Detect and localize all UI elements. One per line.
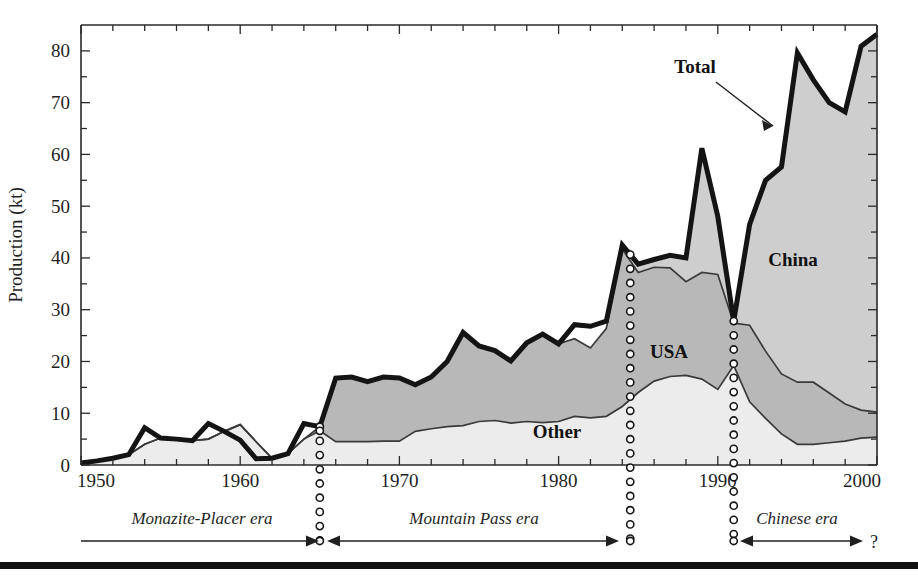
x-tick-label-2000: 2000: [843, 470, 881, 491]
era-divider-dot-2: [730, 374, 737, 381]
era-divider-dot-2: [730, 417, 737, 424]
y-tick-label-20: 20: [51, 351, 70, 372]
footer-rule: [0, 562, 918, 569]
era-divider-dot-2: [730, 388, 737, 395]
era-divider-dot-0: [316, 480, 323, 487]
era-divider-dot-1: [627, 407, 634, 414]
boundary-marker-1: [316, 427, 323, 434]
era-divider-dot-2: [730, 346, 737, 353]
y-tick-label-70: 70: [51, 92, 70, 113]
era-divider-dot-2: [730, 403, 737, 410]
era-divider-dot-2: [730, 516, 737, 523]
usa-annotation-label: USA: [650, 341, 688, 362]
era-divider-dot-1: [627, 279, 634, 286]
era-divider-dot-1: [627, 308, 634, 315]
x-tick-label-1950: 1950: [77, 470, 115, 491]
other-annotation-label: Other: [533, 421, 582, 442]
era-timeline-group: Monazite-Placer era Mountain Pass era Ch…: [81, 509, 878, 552]
era-divider-dot-1: [627, 336, 634, 343]
era3-arrowhead-right: [850, 536, 863, 547]
era-divider-dot-0: [316, 451, 323, 458]
era-divider-dot-1: [627, 379, 634, 386]
era-divider-dot-2: [730, 332, 737, 339]
era-divider-dot-0: [316, 437, 323, 444]
y-tick-label-30: 30: [51, 299, 70, 320]
era-divider-dot-2: [730, 317, 737, 324]
era-divider-dot-2: [730, 431, 737, 438]
era-divider-dot-1: [627, 322, 634, 329]
era-divider-dot-2: [730, 474, 737, 481]
era2-arrowhead-right: [606, 536, 619, 547]
era-divider-dot-2: [730, 360, 737, 367]
era-divider-dot-0: [316, 522, 323, 529]
era-divider-dot-1: [627, 251, 634, 258]
era-divider-dot-1: [627, 436, 634, 443]
era-divider-dot-2: [730, 445, 737, 452]
era-divider-dot-1: [627, 350, 634, 357]
y-tick-label-80: 80: [51, 40, 70, 61]
production-area-chart: 01020304050607080 1950196019701980199020…: [0, 0, 918, 578]
era-divider-dot-1: [627, 265, 634, 272]
era-divider-dot-1: [627, 450, 634, 457]
y-tick-label-10: 10: [51, 403, 70, 424]
era-label-monazite-placer: Monazite-Placer era: [130, 509, 272, 528]
era-divider-endpoint-1: [627, 537, 634, 544]
era-label-mountain-pass: Mountain Pass era: [408, 509, 538, 528]
y-tick-label-40: 40: [51, 247, 70, 268]
era-divider-dot-2: [730, 459, 737, 466]
x-tick-label-1970: 1970: [380, 470, 418, 491]
figure-container: 01020304050607080 1950196019701980199020…: [0, 0, 918, 578]
era-divider-dot-2: [730, 488, 737, 495]
era-divider-dot-1: [627, 294, 634, 301]
era-divider-dot-0: [316, 466, 323, 473]
y-tick-label-60: 60: [51, 144, 70, 165]
era-divider-dot-1: [627, 507, 634, 514]
era-label-chinese: Chinese era: [756, 509, 838, 528]
x-tick-label-1980: 1980: [540, 470, 578, 491]
era-divider-dot-1: [627, 464, 634, 471]
era-divider-dot-0: [316, 508, 323, 515]
y-tick-label-50: 50: [51, 196, 70, 217]
era-divider-dot-0: [316, 494, 323, 501]
total-annotation-label: Total: [674, 56, 716, 77]
china-annotation-label: China: [768, 249, 818, 270]
x-axis-tick-labels: 195019601970198019902000: [77, 470, 881, 491]
era-divider-dot-1: [627, 478, 634, 485]
y-axis-title: Production (kt): [5, 187, 27, 303]
future-question-mark: ?: [870, 532, 878, 552]
era-divider-endpoint-2: [730, 537, 737, 544]
x-tick-label-1960: 1960: [221, 470, 259, 491]
era-divider-dot-1: [627, 492, 634, 499]
era-divider-dot-1: [627, 393, 634, 400]
era-divider-dot-1: [627, 521, 634, 528]
y-axis-tick-labels: 01020304050607080: [51, 40, 70, 475]
era-divider-dot-1: [627, 421, 634, 428]
era-divider-dot-2: [730, 502, 737, 509]
y-tick-label-0: 0: [61, 455, 71, 476]
era-divider-dot-1: [627, 365, 634, 372]
